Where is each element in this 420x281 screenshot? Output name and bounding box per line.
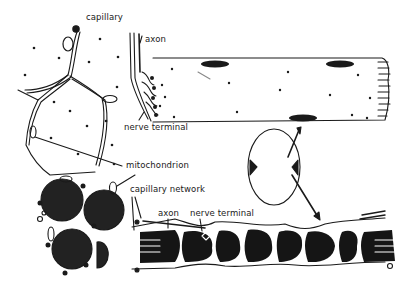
label-capillary-network: capillary network	[130, 184, 205, 194]
muscle-diagram	[0, 0, 420, 281]
fiber-strip-bottom	[132, 211, 398, 272]
label-axon-top: axon	[145, 34, 166, 44]
fiber-cross-oval	[248, 127, 320, 220]
label-axon-bottom: axon	[158, 208, 179, 218]
fiber-longitudinal	[130, 33, 390, 122]
leader-lines	[132, 36, 202, 231]
label-capillary: capillary	[86, 12, 123, 22]
cross-section-bottom-left	[38, 175, 136, 276]
label-mitochondrion: mitochondrion	[126, 160, 189, 170]
nerve-terminal-top	[150, 76, 158, 117]
label-nerve-terminal-top: nerve terminal	[124, 122, 188, 132]
fiber-nuclei	[159, 61, 371, 122]
label-nerve-terminal-bottom: nerve terminal	[190, 208, 254, 218]
